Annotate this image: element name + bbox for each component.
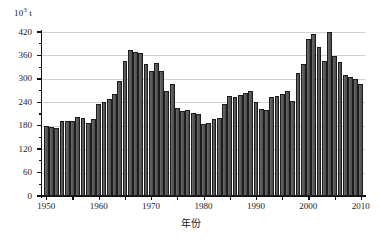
bar: [107, 99, 112, 196]
bar: [54, 128, 59, 196]
bar: [254, 102, 259, 196]
bar: [290, 101, 295, 196]
x-tick: [282, 196, 283, 200]
y-tick-label: 60: [2, 168, 32, 177]
x-tick: [151, 196, 152, 200]
bar: [86, 123, 91, 196]
bar: [196, 114, 201, 196]
bar: [248, 91, 253, 196]
bar: [243, 93, 248, 196]
y-tick-label: 180: [2, 121, 32, 130]
x-tick: [72, 196, 73, 200]
x-tick-label: 2000: [291, 201, 325, 211]
bar: [269, 97, 274, 196]
bar: [306, 39, 311, 196]
x-tick: [204, 196, 205, 200]
bar: [201, 124, 206, 196]
x-tick: [230, 196, 231, 200]
y-tick-label: 360: [2, 51, 32, 60]
bar: [128, 50, 133, 196]
unit-mantissa: 10: [14, 8, 23, 18]
x-tick-label: 1970: [134, 201, 168, 211]
bar: [332, 56, 337, 196]
bar: [49, 127, 54, 196]
bar: [70, 121, 75, 196]
bar: [348, 77, 353, 196]
bar: [185, 110, 190, 196]
bar: [164, 91, 169, 196]
bar: [65, 121, 70, 196]
x-tick: [308, 196, 309, 200]
bar: [217, 118, 222, 196]
bar: [81, 118, 86, 196]
bar: [227, 96, 232, 196]
bar: [60, 121, 65, 196]
bar: [311, 34, 316, 196]
bar: [238, 95, 243, 196]
bar: [353, 79, 358, 196]
y-tick-label: 0: [2, 192, 32, 201]
x-tick-label: 1950: [29, 201, 63, 211]
bar: [133, 52, 138, 196]
bar: [264, 110, 269, 196]
bar: [296, 73, 301, 196]
bar: [112, 94, 117, 196]
x-tick: [99, 196, 100, 200]
bar: [206, 123, 211, 196]
bar: [117, 81, 122, 196]
bar: [280, 94, 285, 196]
bar: [154, 63, 159, 196]
bar: [358, 84, 363, 196]
bar: [138, 53, 143, 196]
x-tick: [125, 196, 126, 200]
bar: [123, 61, 128, 196]
bar: [301, 64, 306, 196]
bar: [96, 104, 101, 196]
x-axis-title: 年份: [0, 215, 381, 230]
bar: [44, 126, 49, 196]
x-tick: [256, 196, 257, 200]
bar: [317, 47, 322, 196]
y-axis-unit-label: 103 t: [14, 6, 32, 18]
bar: [322, 61, 327, 196]
bar: [212, 119, 217, 196]
bar: [222, 104, 227, 196]
bar: [144, 64, 149, 196]
y-tick-label: 120: [2, 145, 32, 154]
bar: [327, 32, 332, 196]
x-tick: [177, 196, 178, 200]
bar: [180, 111, 185, 196]
bar-chart: 103 t 060120180240300360420 195019601970…: [0, 0, 381, 241]
bar: [338, 62, 343, 196]
bar: [159, 71, 164, 196]
y-tick-label: 300: [2, 74, 32, 83]
bar: [91, 119, 96, 196]
bar: [259, 109, 264, 196]
x-tick-label: 2010: [344, 201, 378, 211]
bar: [343, 75, 348, 196]
unit-suffix: t: [27, 8, 32, 18]
bar: [275, 96, 280, 196]
bar: [170, 84, 175, 196]
bar: [191, 113, 196, 196]
bar: [285, 91, 290, 196]
bar: [175, 108, 180, 196]
bar: [149, 71, 154, 196]
bar-series: [42, 32, 365, 196]
x-tick-label: 1990: [239, 201, 273, 211]
bar: [75, 117, 80, 196]
x-tick: [46, 196, 47, 200]
x-tick: [361, 196, 362, 200]
x-tick-label: 1960: [82, 201, 116, 211]
x-tick: [335, 196, 336, 200]
bar: [233, 97, 238, 196]
x-tick-label: 1980: [187, 201, 221, 211]
bar: [102, 102, 107, 196]
y-tick-label: 240: [2, 98, 32, 107]
y-tick-label: 420: [2, 28, 32, 37]
